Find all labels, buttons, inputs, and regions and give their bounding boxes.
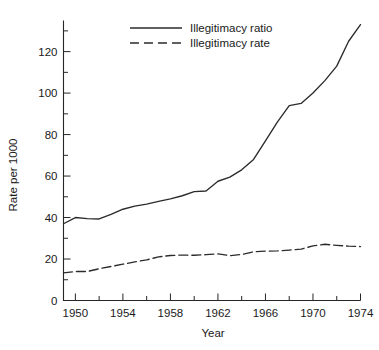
x-tick-label: 1954 [110, 307, 136, 319]
y-tick-label: 100 [38, 87, 57, 99]
legend-label-1: Illegitimacy ratio [190, 22, 272, 34]
y-tick-label: 20 [45, 253, 58, 265]
chart-legend: Illegitimacy ratioIllegitimacy rate [130, 22, 272, 49]
x-tick-label: 1958 [158, 307, 184, 319]
x-tick-label: 1970 [300, 307, 326, 319]
x-axis-ticks [75, 294, 360, 301]
x-tick-label: 1974 [348, 307, 374, 319]
y-axis-ticks [64, 31, 71, 301]
x-tick-label: 1950 [63, 307, 89, 319]
y-tick-label: 120 [38, 46, 57, 58]
x-axis-title: Year [201, 327, 224, 339]
plot-axes [64, 21, 361, 301]
y-tick-label: 60 [45, 170, 58, 182]
chart-figure: 020406080100120 195019541958196219661970… [0, 0, 379, 350]
y-axis-title: Rate per 1000 [7, 139, 19, 212]
y-tick-label: 40 [45, 212, 58, 224]
y-tick-label: 0 [51, 295, 57, 307]
x-tick-label: 1962 [205, 307, 231, 319]
y-tick-label: 80 [45, 129, 58, 141]
series-line-illegitimacy-rate [64, 244, 361, 273]
x-axis-tick-labels: 1950195419581962196619701974 [63, 307, 374, 319]
legend-label-2: Illegitimacy rate [190, 37, 270, 49]
series-line-illegitimacy-ratio [64, 25, 361, 224]
data-series-group [64, 25, 361, 273]
axis-frame [64, 21, 361, 301]
y-axis-tick-labels: 020406080100120 [38, 46, 57, 307]
x-tick-label: 1966 [253, 307, 279, 319]
line-chart-canvas: 020406080100120 195019541958196219661970… [0, 0, 379, 350]
